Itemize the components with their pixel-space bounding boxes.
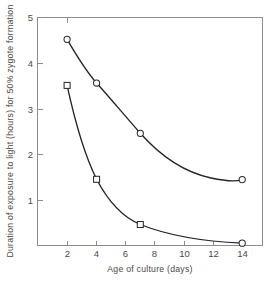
lower-data-point xyxy=(137,222,143,228)
chart-figure: 2 4 6 8 10 12 14 1 2 3 4 5 Age of cultur… xyxy=(0,0,275,281)
lower-data-point xyxy=(94,176,100,182)
y-tick-label: 5 xyxy=(28,12,33,23)
upper-data-point xyxy=(239,177,245,183)
x-tick-label: 2 xyxy=(65,248,70,259)
upper-data-point xyxy=(137,130,143,136)
y-tick-label: 3 xyxy=(28,104,33,115)
lower-data-point xyxy=(64,82,70,88)
y-tick-label: 2 xyxy=(28,149,33,160)
y-axis-title: Duration of exposure to light (hours) fo… xyxy=(5,4,15,257)
upper-data-point xyxy=(64,36,70,42)
zygote-formation-line-chart: 2 4 6 8 10 12 14 1 2 3 4 5 Age of cultur… xyxy=(0,0,275,281)
y-tick-label: 1 xyxy=(28,195,33,206)
x-tick-label: 14 xyxy=(237,248,248,259)
x-tick-label: 4 xyxy=(94,248,99,259)
chart-background xyxy=(0,0,275,281)
x-tick-label: 6 xyxy=(123,248,128,259)
lower-data-point xyxy=(239,240,245,246)
x-axis-title: Age of culture (days) xyxy=(107,264,192,274)
upper-data-point xyxy=(94,80,100,86)
x-tick-label: 12 xyxy=(208,248,219,259)
x-tick-label: 10 xyxy=(179,248,190,259)
y-tick-label: 4 xyxy=(28,58,33,69)
x-tick-label: 8 xyxy=(152,248,157,259)
